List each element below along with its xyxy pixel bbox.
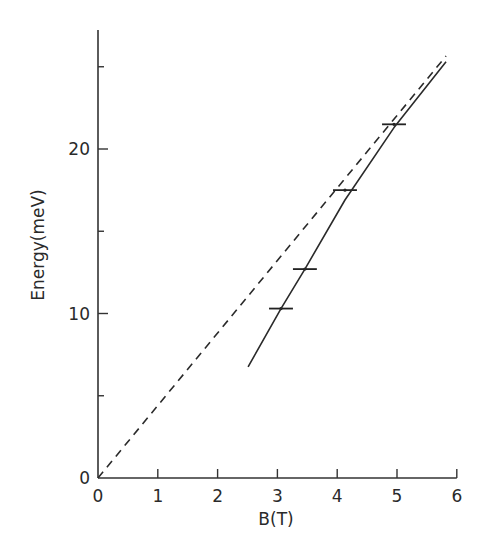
x-tick-label: 0: [93, 486, 104, 506]
dashed-reference-line: [98, 56, 446, 478]
y-axis-label: Energy(meV): [28, 189, 48, 300]
x-tick-label: 3: [272, 486, 283, 506]
axes: [98, 30, 457, 478]
x-tick-label: 1: [152, 486, 163, 506]
y-tick-label: 0: [79, 468, 90, 488]
y-tick-label: 10: [68, 304, 90, 324]
solid-fit-line: [248, 62, 446, 367]
x-tick-label: 4: [332, 486, 343, 506]
x-tick-label: 2: [212, 486, 223, 506]
axis-ticks: 012345601020: [68, 67, 462, 506]
x-tick-label: 5: [392, 486, 403, 506]
data-series: [98, 56, 446, 478]
data-point: [343, 189, 346, 192]
x-tick-label: 6: [451, 486, 462, 506]
x-axis-label: B(T): [258, 509, 293, 529]
chart-plot: 012345601020 B(T) Energy(meV): [0, 0, 485, 554]
y-tick-label: 20: [68, 139, 90, 159]
